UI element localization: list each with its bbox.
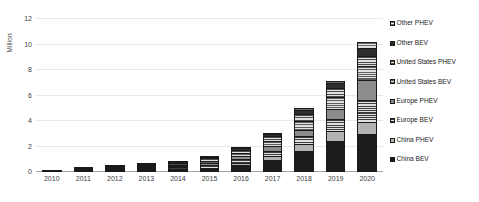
bar-segment[interactable] <box>357 48 377 56</box>
y-tick-label: 0 <box>28 168 32 175</box>
stacked-bar-chart: Million 024681012 2010201120122013201420… <box>0 0 479 202</box>
bar-segment[interactable] <box>294 144 314 151</box>
x-tick-label: 2019 <box>328 175 344 182</box>
bar-group[interactable] <box>137 163 157 172</box>
bar-group[interactable] <box>326 81 346 173</box>
x-tick-label: 2020 <box>359 175 375 182</box>
legend-label: Other BEV <box>397 40 429 47</box>
legend-label: China PHEV <box>397 137 434 144</box>
bar-segment[interactable] <box>326 88 346 97</box>
x-tick-label: 2013 <box>139 175 155 182</box>
bar-segment[interactable] <box>294 151 314 172</box>
legend-item[interactable]: Other BEV <box>390 33 479 52</box>
bar-segment[interactable] <box>357 122 377 134</box>
bar-group[interactable] <box>42 170 62 172</box>
bars-layer <box>36 19 383 172</box>
bar-group[interactable] <box>74 167 94 172</box>
legend-swatch-icon <box>390 79 395 84</box>
bar-segment[interactable] <box>231 165 251 172</box>
legend-item[interactable]: China PHEV <box>390 130 479 149</box>
legend-item[interactable]: China BEV <box>390 150 479 169</box>
bar-group[interactable] <box>357 42 377 172</box>
bar-segment[interactable] <box>294 114 314 121</box>
legend-label: Europe PHEV <box>397 98 438 105</box>
x-tick-label: 2016 <box>233 175 249 182</box>
x-axis-tick-labels: 2010201120122013201420152016201720182019… <box>36 175 383 189</box>
x-tick-label: 2010 <box>44 175 60 182</box>
bar-group[interactable] <box>168 161 188 172</box>
bar-segment[interactable] <box>294 136 314 144</box>
bar-segment[interactable] <box>357 66 377 80</box>
bar-segment[interactable] <box>326 141 346 172</box>
chart-legend: Other PHEVOther BEVUnited States PHEVUni… <box>390 14 479 169</box>
legend-item[interactable]: Other PHEV <box>390 14 479 33</box>
legend-swatch-icon <box>390 138 395 143</box>
legend-swatch-icon <box>390 118 395 123</box>
bar-segment[interactable] <box>357 134 377 172</box>
x-tick-label: 2014 <box>170 175 186 182</box>
bar-group[interactable] <box>294 108 314 172</box>
legend-label: United States PHEV <box>397 59 456 66</box>
bar-segment[interactable] <box>74 170 94 172</box>
legend-label: United States BEV <box>397 79 452 86</box>
y-tick-label: 12 <box>24 15 32 22</box>
legend-label: Europe BEV <box>397 117 433 124</box>
legend-label: Other PHEV <box>397 20 433 27</box>
plot-area: 024681012 <box>36 19 383 172</box>
legend-swatch-icon <box>390 157 395 162</box>
bar-segment[interactable] <box>105 170 125 172</box>
x-tick-label: 2018 <box>296 175 312 182</box>
y-tick-label: 8 <box>28 66 32 73</box>
legend-item[interactable]: Europe BEV <box>390 111 479 130</box>
x-tick-label: 2015 <box>202 175 218 182</box>
y-axis-title: Million <box>6 39 13 53</box>
legend-swatch-icon <box>390 41 395 46</box>
bar-group[interactable] <box>200 156 220 172</box>
legend-item[interactable]: United States PHEV <box>390 53 479 72</box>
bar-segment[interactable] <box>326 109 346 119</box>
legend-swatch-icon <box>390 60 395 65</box>
y-tick-label: 6 <box>28 91 32 98</box>
y-tick-label: 2 <box>28 142 32 149</box>
x-tick-label: 2012 <box>107 175 123 182</box>
y-tick-label: 4 <box>28 117 32 124</box>
y-tick-label: 10 <box>24 40 32 47</box>
bar-group[interactable] <box>105 165 125 172</box>
bar-group[interactable] <box>231 147 251 172</box>
bar-segment[interactable] <box>326 131 346 141</box>
x-tick-label: 2017 <box>265 175 281 182</box>
bar-group[interactable] <box>263 133 283 172</box>
bar-segment[interactable] <box>357 80 377 100</box>
bar-segment[interactable] <box>137 170 157 172</box>
bar-segment[interactable] <box>326 97 346 109</box>
legend-swatch-icon <box>390 99 395 104</box>
bar-segment[interactable] <box>263 160 283 172</box>
legend-label: China BEV <box>397 156 429 163</box>
legend-item[interactable]: Europe PHEV <box>390 92 479 111</box>
bar-segment[interactable] <box>168 170 188 172</box>
bar-segment[interactable] <box>357 100 377 122</box>
bar-segment[interactable] <box>326 119 346 131</box>
legend-item[interactable]: United States BEV <box>390 72 479 91</box>
legend-swatch-icon <box>390 21 395 26</box>
x-tick-label: 2011 <box>76 175 91 182</box>
bar-segment[interactable] <box>357 56 377 65</box>
bar-segment[interactable] <box>200 169 220 172</box>
bar-segment[interactable] <box>42 170 62 172</box>
bar-segment[interactable] <box>294 121 314 130</box>
